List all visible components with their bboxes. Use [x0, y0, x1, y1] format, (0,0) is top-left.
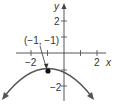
y-axis-arrow-icon — [62, 3, 67, 9]
y-axis-label: y — [53, 1, 60, 12]
vertex-label: (−1, −1) — [24, 35, 59, 46]
x-axis-label: x — [105, 57, 112, 68]
left-arrow-icon — [2, 92, 9, 100]
graph: −2 2 x 2 −2 y (−1, −1) — [0, 0, 115, 106]
tick-x-2: 2 — [94, 57, 100, 68]
tick-y-neg2: −2 — [50, 82, 62, 93]
tick-y-2: 2 — [54, 16, 60, 27]
vertex-point — [45, 68, 50, 73]
vertex-pointer — [40, 46, 46, 67]
right-arrow-icon — [87, 92, 94, 100]
tick-x-neg2: −2 — [25, 57, 37, 68]
